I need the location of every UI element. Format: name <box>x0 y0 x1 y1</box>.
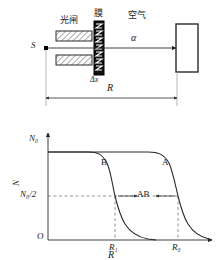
x-axis-title: R <box>108 250 114 260</box>
curve-b-label: B <box>101 158 107 167</box>
y-tick-label-n0: N₀ <box>29 134 38 143</box>
y-axis-title: N <box>12 180 21 186</box>
alpha-particle-label: α <box>131 33 136 43</box>
figure-canvas <box>0 0 218 260</box>
detector-box <box>176 24 198 72</box>
figure-container: S 光闸 膜 空气 α Δx R N₀ N₀/2 N O R₁ R₀ R AB … <box>0 0 218 260</box>
top-apparatus-diagram <box>44 21 198 106</box>
x-tick-label-r0: R₀ <box>172 243 181 252</box>
source-label: S <box>31 41 36 50</box>
origin-label: O <box>37 232 44 241</box>
ab-span-label: AB <box>137 190 150 199</box>
range-distance-label: R <box>107 83 113 93</box>
membrane-thickness-label: Δx <box>90 76 98 84</box>
air-label: 空气 <box>128 11 146 20</box>
absorption-curve-graph <box>48 133 212 240</box>
shutter-block-lower <box>56 55 92 65</box>
source-point-marker <box>44 46 48 50</box>
shutter-label: 光闸 <box>60 16 78 25</box>
shutter-block-upper <box>56 31 92 41</box>
y-tick-label-n0-half: N₀/2 <box>20 190 36 199</box>
curve-a-label: A <box>162 158 169 167</box>
membrane-label: 膜 <box>94 9 103 18</box>
